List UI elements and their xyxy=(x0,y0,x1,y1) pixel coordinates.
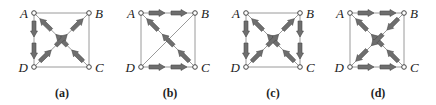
force-arrow-icon xyxy=(40,19,53,32)
force-arrow-icon xyxy=(297,21,304,37)
force-arrow-icon xyxy=(252,19,265,32)
force-arrow-icon xyxy=(72,50,85,63)
node-C xyxy=(87,65,92,70)
node-label-D: D xyxy=(125,60,136,75)
force-arrow-icon xyxy=(380,10,396,17)
node-label-D: D xyxy=(230,60,241,75)
node-B xyxy=(402,11,407,16)
node-A xyxy=(348,11,353,16)
force-arrow-icon xyxy=(356,19,369,32)
force-arrow-icon xyxy=(171,64,187,71)
force-arrow-icon xyxy=(38,50,51,63)
caption-d: (d) xyxy=(371,86,386,100)
node-D xyxy=(244,65,249,70)
node-A xyxy=(139,11,144,16)
node-label-B: B xyxy=(201,6,209,21)
node-label-A: A xyxy=(335,6,344,21)
node-label-D: D xyxy=(334,60,345,75)
node-B xyxy=(193,11,198,16)
node-label-C: C xyxy=(410,60,419,75)
force-arrow-icon xyxy=(178,50,191,63)
node-label-C: C xyxy=(201,60,210,75)
force-arrow-icon xyxy=(31,21,38,37)
node-D xyxy=(348,65,353,70)
force-arrow-icon xyxy=(149,10,165,17)
force-arrow-icon xyxy=(387,17,400,30)
force-arrow-icon xyxy=(171,10,187,17)
node-label-D: D xyxy=(18,60,29,75)
panel-b: ABCD(b) xyxy=(125,6,210,101)
force-arrow-icon xyxy=(149,64,165,71)
force-arrow-icon xyxy=(387,50,400,63)
node-C xyxy=(298,65,303,70)
force-arrow-icon xyxy=(380,64,396,71)
caption-b: (b) xyxy=(163,86,178,100)
force-arrow-icon xyxy=(162,34,175,47)
force-arrow-icon xyxy=(243,43,250,59)
node-B xyxy=(298,11,303,16)
node-label-A: A xyxy=(19,6,28,21)
node-label-C: C xyxy=(306,60,315,75)
node-label-B: B xyxy=(410,6,418,21)
force-arrow-icon xyxy=(147,19,160,32)
force-arrow-icon xyxy=(297,43,304,59)
force-arrow-icon xyxy=(358,64,374,71)
force-arrow-icon xyxy=(358,10,374,17)
force-arrow-icon xyxy=(243,21,250,37)
force-arrow-icon xyxy=(31,43,38,59)
node-D xyxy=(32,65,37,70)
node-B xyxy=(87,11,92,16)
node-label-A: A xyxy=(126,6,135,21)
force-arrow-icon xyxy=(70,19,83,32)
force-arrow-icon xyxy=(250,50,263,63)
node-C xyxy=(193,65,198,70)
force-arrow-icon xyxy=(356,49,369,62)
node-C xyxy=(402,65,407,70)
panel-c: ABCD(c) xyxy=(230,6,315,101)
node-label-B: B xyxy=(95,6,103,21)
panel-a: ABCD(a) xyxy=(18,6,104,101)
square-network-figure: ABCD(a)ABCD(b)ABCD(c)ABCD(d) xyxy=(0,0,436,105)
node-A xyxy=(32,11,37,16)
panel-d: ABCD(d) xyxy=(334,6,419,101)
node-label-B: B xyxy=(306,6,314,21)
caption-a: (a) xyxy=(55,86,69,100)
force-arrow-icon xyxy=(282,19,295,32)
node-D xyxy=(139,65,144,70)
force-arrow-icon xyxy=(283,50,296,63)
node-label-C: C xyxy=(95,60,104,75)
node-label-A: A xyxy=(231,6,240,21)
node-A xyxy=(244,11,249,16)
caption-c: (c) xyxy=(266,86,279,100)
